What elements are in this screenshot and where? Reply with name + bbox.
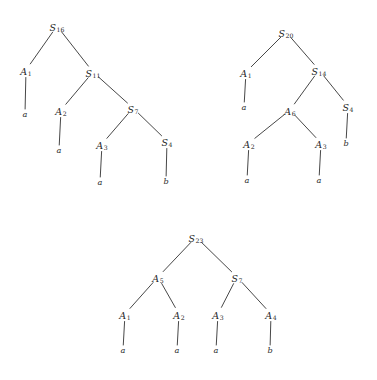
tree-edge: [242, 283, 266, 309]
parse-tree-3: S23A5S7A1A2A3A4aaab: [0, 0, 377, 380]
tree-node-s7: S7: [231, 269, 242, 285]
tree-edge: [270, 322, 271, 346]
tree-leaf-terminal: a: [121, 346, 126, 354]
tree-node-a4: A4: [265, 306, 276, 322]
node-symbol: A: [173, 310, 180, 321]
tree-node-s23: S23: [189, 229, 204, 245]
parse-tree-figure: S16A1S11A2S7A3S4aaabS20A1S14A6S4A2A3abaa…: [0, 0, 377, 380]
node-subscript: 7: [239, 277, 243, 284]
tree-node-a1: A1: [119, 306, 130, 322]
node-subscript: 3: [220, 314, 224, 321]
tree-edge: [177, 321, 178, 345]
tree-leaf-terminal: b: [267, 346, 272, 354]
node-symbol: S: [189, 233, 196, 244]
tree-leaf-terminal: a: [175, 346, 180, 354]
node-symbol: A: [265, 310, 272, 321]
tree-edge: [216, 321, 217, 345]
tree-node-a2: A2: [173, 306, 184, 322]
tree-edge: [221, 284, 233, 308]
tree-edge: [130, 283, 153, 309]
node-subscript: 1: [127, 314, 131, 321]
tree-edge: [162, 284, 176, 308]
tree-edges: [0, 0, 377, 380]
node-symbol: A: [119, 310, 126, 321]
node-symbol: S: [231, 273, 238, 284]
node-subscript: 23: [196, 237, 204, 244]
tree-node-a3: A3: [212, 306, 223, 322]
tree-leaf-terminal: a: [214, 346, 219, 354]
tree-node-a5: A5: [152, 269, 163, 285]
tree-edge: [201, 242, 231, 272]
node-subscript: 2: [181, 314, 185, 321]
node-subscript: 4: [273, 314, 277, 321]
node-subscript: 5: [160, 277, 164, 284]
tree-edge: [123, 321, 124, 345]
node-symbol: A: [152, 273, 159, 284]
node-symbol: A: [212, 310, 219, 321]
tree-edge: [163, 242, 191, 271]
